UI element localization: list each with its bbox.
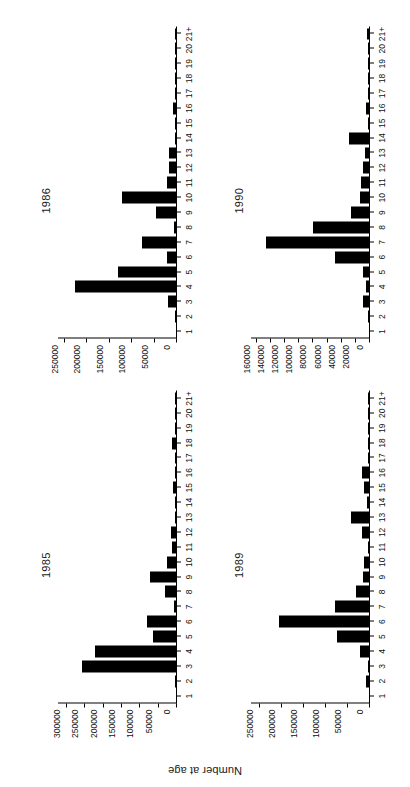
x-axis-tick [177, 576, 181, 577]
bar [368, 87, 369, 99]
y-axis-tick [312, 339, 313, 343]
bar [368, 117, 369, 129]
x-axis-tick-label: 11 [377, 178, 387, 187]
bar [368, 392, 369, 404]
bar [175, 117, 176, 129]
x-axis-tick-label: 6 [377, 254, 387, 259]
x-axis-tick [177, 501, 181, 502]
x-axis-tick [177, 516, 181, 517]
x-axis-tick-label: 11 [184, 178, 194, 187]
x-axis-tick [177, 427, 181, 428]
x-axis-tick-label: 13 [184, 148, 194, 157]
bar [175, 310, 176, 322]
x-axis-tick [370, 665, 374, 666]
x-axis-tick-label: 13 [377, 148, 387, 157]
x-axis-tick [370, 546, 374, 547]
bar [279, 615, 369, 627]
x-axis-tick-label: 1 [377, 693, 387, 698]
y-axis-tick [303, 703, 304, 707]
x-axis-tick [177, 397, 181, 398]
x-axis-tick-label: 3 [184, 663, 194, 668]
bar [364, 481, 369, 493]
x-axis-tick-label: 5 [377, 269, 387, 274]
y-axis-tick-label: 60000 [313, 345, 323, 369]
x-axis-tick [370, 397, 374, 398]
bar [168, 295, 176, 307]
y-axis-tick [121, 703, 122, 707]
x-axis-tick [177, 107, 181, 108]
bar [367, 28, 369, 40]
x-axis-tick-label: 6 [377, 619, 387, 624]
x-axis-tick [177, 680, 181, 681]
y-axis-tick [109, 339, 110, 343]
x-axis-tick [370, 77, 374, 78]
bar [366, 102, 369, 114]
x-axis-tick [177, 315, 181, 316]
bar [167, 251, 176, 263]
y-axis-tick-label: 300000 [52, 709, 62, 737]
bar [173, 102, 176, 114]
x-axis-tick-label: 7 [377, 604, 387, 609]
x-axis-tick [370, 650, 374, 651]
panel-grid: 1985 05000010000015000020000025000030000… [0, 0, 410, 787]
y-axis-tick [325, 703, 326, 707]
x-axis-tick-label: 17 [377, 88, 387, 97]
x-axis-tick-label: 1 [184, 329, 194, 334]
y-axis-tick-label: 50000 [144, 709, 154, 733]
y-axis-tick [64, 339, 65, 343]
y-axis-tick [270, 339, 271, 343]
bar [368, 407, 369, 419]
y-axis-tick-label: 80000 [298, 345, 308, 369]
bar [362, 466, 369, 478]
x-axis-tick-label: 16 [377, 103, 387, 112]
x-axis-tick [177, 62, 181, 63]
x-axis-tick-label: 15 [184, 118, 194, 127]
x-axis-tick-label: 5 [377, 634, 387, 639]
x-axis-tick [177, 226, 181, 227]
bar [175, 675, 176, 687]
x-axis-tick [370, 47, 374, 48]
bar [368, 660, 369, 672]
bar [368, 452, 369, 464]
y-axis-tick-label: 40000 [327, 345, 337, 369]
bar [367, 496, 369, 508]
x-axis-tick-label: 11 [184, 542, 194, 551]
x-axis-tick [177, 166, 181, 167]
x-axis-tick [177, 605, 181, 606]
bar [335, 251, 369, 263]
x-axis-tick [370, 590, 374, 591]
bar [335, 600, 369, 612]
x-axis-tick-label: 16 [184, 468, 194, 477]
y-axis-tick-label: 140000 [256, 345, 266, 373]
plot-area: 0200004000060000800001000001200001400001… [251, 26, 370, 339]
bar [175, 132, 176, 144]
x-axis-tick-label: 14 [184, 133, 194, 142]
y-axis-tick [158, 703, 159, 707]
x-axis-tick-label: 2 [184, 314, 194, 319]
x-axis-tick-label: 20 [184, 44, 194, 53]
y-axis-tick [347, 703, 348, 707]
x-axis-tick [177, 77, 181, 78]
y-axis-tick-label: 100000 [284, 345, 294, 373]
x-axis-tick [370, 412, 374, 413]
x-axis-tick-label: 8 [184, 589, 194, 594]
x-axis-tick [370, 92, 374, 93]
y-axis-tick-label: 200000 [89, 709, 99, 737]
y-axis-tick [176, 339, 177, 343]
x-axis-tick-label: 1 [184, 693, 194, 698]
bar [360, 645, 369, 657]
x-axis-tick-label: 8 [377, 225, 387, 230]
x-axis-tick [370, 226, 374, 227]
y-axis-tick-label: 200000 [267, 709, 277, 737]
x-axis-tick [177, 32, 181, 33]
x-axis-tick [370, 561, 374, 562]
panel-title: 1986 [40, 187, 52, 213]
x-axis-tick [177, 546, 181, 547]
bar [175, 407, 176, 419]
bar [175, 496, 176, 508]
x-axis-tick-label: 2 [184, 678, 194, 683]
x-axis-tick-label: 15 [377, 483, 387, 492]
x-axis-tick-label: 8 [377, 589, 387, 594]
x-axis-tick-label: 21+ [184, 26, 194, 40]
x-axis-tick [370, 285, 374, 286]
